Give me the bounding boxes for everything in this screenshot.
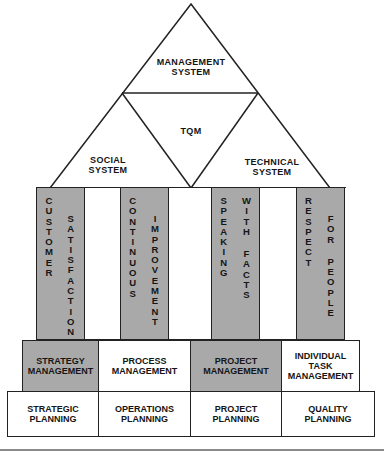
pillar-letter: R (327, 235, 334, 245)
process-management-cell: PROCESS MANAGEMENT (99, 340, 191, 392)
strategy-management-cell: STRATEGY MANAGEMENT (22, 340, 99, 392)
cell-label: PROJECT PLANNING (213, 404, 260, 424)
technical-system-label: TECHNICAL SYSTEM (232, 157, 312, 177)
pillar-letter: S (130, 289, 136, 299)
operations-planning-cell: OPERATIONS PLANNING (99, 391, 191, 437)
cell-label: QUALITY PLANNING (305, 404, 352, 424)
bottom-rule (0, 449, 384, 451)
social-system-label: SOCIAL SYSTEM (78, 155, 138, 175)
strategic-planning-cell: STRATEGIC PLANNING (7, 391, 99, 437)
pillar-continuous-improvement: CONTINUOUS IMPROVEMENT (120, 187, 169, 340)
pillar-gap (260, 187, 296, 340)
cell-label: PROJECT MANAGEMENT (203, 356, 269, 376)
pillar-respect-for-people: RESPECT FORPEOPLE (296, 187, 345, 340)
pillar-gap (85, 187, 120, 340)
pillar-letter: S (243, 290, 249, 300)
pillar-speaking-with-facts: SPEAKING WITHFACTS (211, 187, 260, 340)
planning-row: STRATEGIC PLANNING OPERATIONS PLANNING P… (7, 391, 375, 437)
pillar-letter: H (243, 227, 250, 237)
project-management-cell: PROJECT MANAGEMENT (191, 340, 282, 392)
tqm-label: TQM (171, 126, 211, 136)
project-planning-cell: PROJECT PLANNING (191, 391, 282, 437)
pillar-word-2: SATISFACTION (67, 214, 74, 338)
pillar-word-1: RESPECT (305, 196, 312, 268)
pillar-letter: T (306, 258, 312, 268)
pillar-letter: N (67, 327, 74, 337)
cell-label: INDIVIDUAL TASK MANAGEMENT (288, 351, 354, 381)
pillar-word-2: FORPEOPLE (327, 214, 334, 319)
quality-planning-cell: QUALITY PLANNING (282, 391, 375, 437)
pillar-word-2: IMPROVEMENT (151, 214, 159, 327)
cell-label: PROCESS MANAGEMENT (112, 356, 178, 376)
tqm-pyramid (0, 0, 384, 200)
cell-label: STRATEGY MANAGEMENT (28, 356, 94, 376)
pillar-word-1: SPEAKING (220, 196, 227, 278)
individual-task-management-cell: INDIVIDUAL TASK MANAGEMENT (282, 340, 360, 392)
cell-label: OPERATIONS PLANNING (115, 404, 174, 424)
pillar-letter: G (220, 268, 227, 278)
pillar-letter: T (152, 317, 158, 327)
pillar-gap (169, 187, 211, 340)
pillar-word-1: CUSTOMER (45, 196, 53, 278)
management-row: STRATEGY MANAGEMENT PROCESS MANAGEMENT P… (22, 340, 360, 392)
pillar-letter: E (328, 308, 334, 318)
pillar-word-2: WITHFACTS (242, 196, 251, 301)
pillar-customer-satisfaction: CUSTOMER SATISFACTION (36, 187, 85, 340)
pillar-word-1: CONTINUOUS (129, 196, 136, 299)
management-system-label: MANAGEMENT SYSTEM (141, 57, 241, 77)
pillar-letter: R (46, 268, 53, 278)
cell-label: STRATEGIC PLANNING (27, 404, 78, 424)
